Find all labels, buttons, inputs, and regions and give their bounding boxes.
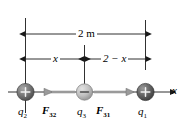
force-label-F32: F32 xyxy=(42,105,56,119)
force-label-F32-sub: 32 xyxy=(49,111,56,119)
force-label-F31: F31 xyxy=(96,105,110,119)
charge-label-q2: q2 xyxy=(18,106,27,120)
distance-two-minus-x-label: 2 − x xyxy=(101,53,128,64)
charge-label-q3: q3 xyxy=(77,106,86,120)
axis-label-x: x xyxy=(172,85,177,96)
charge-label-q3-sub: 3 xyxy=(83,112,87,120)
charge-label-q1: q1 xyxy=(138,106,147,120)
total-distance-label: 2 m xyxy=(76,28,97,39)
charge-label-q2-sub: 2 xyxy=(24,112,28,120)
charge-label-q1-sub: 1 xyxy=(144,112,148,120)
force-diagram-figure: 2 m x 2 − x q2 q3 q1 F32 F31 x xyxy=(0,0,186,126)
distance-x-label: x xyxy=(51,53,60,64)
diagram-canvas xyxy=(0,0,186,126)
force-label-F31-sub: 31 xyxy=(103,111,110,119)
